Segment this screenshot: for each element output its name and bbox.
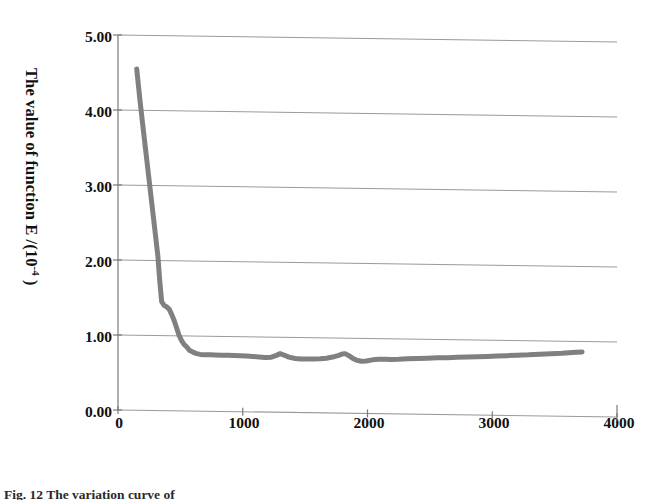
figure-caption: Fig. 12 The variation curve of — [4, 487, 424, 500]
plot-area — [0, 0, 654, 500]
gridline — [118, 110, 617, 117]
data-series-line — [137, 69, 582, 361]
gridline — [118, 35, 617, 42]
gridline — [118, 260, 617, 267]
gridline — [118, 185, 617, 192]
gridline — [118, 335, 617, 342]
figure-container: The value of function E /(10-4 ) 5.00 4.… — [0, 0, 654, 500]
